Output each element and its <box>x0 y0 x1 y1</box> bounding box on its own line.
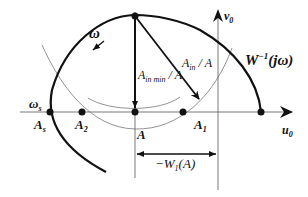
omega-label: ω <box>89 25 100 41</box>
vector-ain <box>135 16 199 99</box>
point-label-a: A <box>136 127 146 142</box>
point-as <box>47 109 54 116</box>
point-a <box>132 109 139 116</box>
point-a1 <box>180 109 187 116</box>
point-label-a2: A2 <box>74 117 88 134</box>
vector-label-ainmin: Ain min / A <box>137 68 183 84</box>
distance-label: −W1(A) <box>155 156 195 173</box>
point-top <box>132 13 139 20</box>
v0-axis-label: v0 <box>224 9 233 25</box>
u0-axis-label: u0 <box>282 123 293 139</box>
point-a2 <box>79 109 86 116</box>
point-curve-end <box>258 109 265 116</box>
curve-label: W−1(jω) <box>245 51 293 69</box>
omega-s-label: ωs <box>29 96 42 113</box>
diagram-canvas: ω ωs As A2 A A1 Ain min / A Ain / A W−1(… <box>0 0 308 197</box>
vector-label-ain: Ain / A <box>181 56 213 72</box>
point-label-a1: A1 <box>193 117 207 134</box>
point-label-as: As <box>33 117 46 134</box>
inverse-frequency-response-curve <box>51 15 261 172</box>
omega-direction-arrow <box>93 41 104 50</box>
